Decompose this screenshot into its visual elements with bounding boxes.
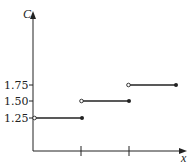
open-endpoint-icon <box>33 116 37 120</box>
y-tick-label-150: 1.50 <box>4 95 29 108</box>
open-endpoint-icon <box>127 83 131 87</box>
y-tick-label-175: 1.75 <box>4 79 29 92</box>
closed-endpoint-icon <box>174 83 178 87</box>
y-axis-label: C <box>23 7 32 21</box>
x-axis-label: x <box>180 151 187 165</box>
closed-endpoint-icon <box>127 99 131 103</box>
open-endpoint-icon <box>80 99 84 103</box>
y-tick-label-125: 1.25 <box>4 112 29 125</box>
closed-endpoint-icon <box>80 116 84 120</box>
step-chart: C x 1.75 1.50 1.25 <box>0 0 194 168</box>
